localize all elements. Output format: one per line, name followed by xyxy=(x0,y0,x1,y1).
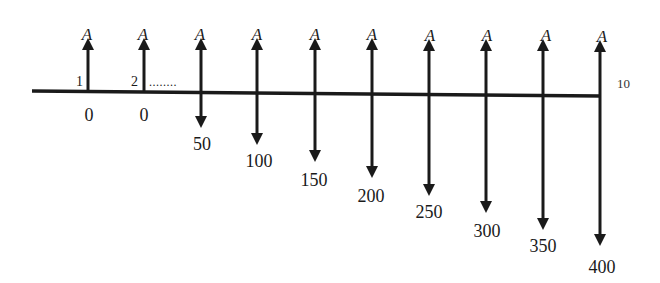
up-label-5: A xyxy=(309,25,321,44)
down-label-9: 350 xyxy=(530,236,557,256)
period-label-10: 10 xyxy=(617,76,630,91)
down-label-2: 0 xyxy=(140,105,149,125)
down-label-5: 150 xyxy=(301,170,328,190)
up-label-2: A xyxy=(137,25,149,44)
down-label-1: 0 xyxy=(85,105,94,125)
down-arrow-labels: 0 0 50 100 150 200 250 300 350 400 xyxy=(85,105,616,277)
down-label-7: 250 xyxy=(416,202,443,222)
up-label-3: A xyxy=(194,25,206,44)
period-label-2: 2 xyxy=(131,74,138,89)
up-label-10: A xyxy=(596,27,608,46)
up-arrow-labels: A A A A A A A A A A xyxy=(81,25,608,46)
ellipsis-dots: ........ xyxy=(149,75,177,89)
up-label-6: A xyxy=(366,25,378,44)
down-label-6: 200 xyxy=(358,186,385,206)
cash-flow-diagram: ........ 1 2 10 A A A A A A A A A A xyxy=(0,0,660,283)
down-label-10: 400 xyxy=(589,257,616,277)
up-label-4: A xyxy=(251,25,263,44)
up-label-8: A xyxy=(481,26,493,45)
down-label-8: 300 xyxy=(474,221,501,241)
down-label-3: 50 xyxy=(193,134,211,154)
up-label-9: A xyxy=(540,26,552,45)
up-label-7: A xyxy=(424,26,436,45)
down-label-4: 100 xyxy=(246,151,273,171)
period-label-1: 1 xyxy=(76,74,83,89)
up-label-1: A xyxy=(81,25,93,44)
